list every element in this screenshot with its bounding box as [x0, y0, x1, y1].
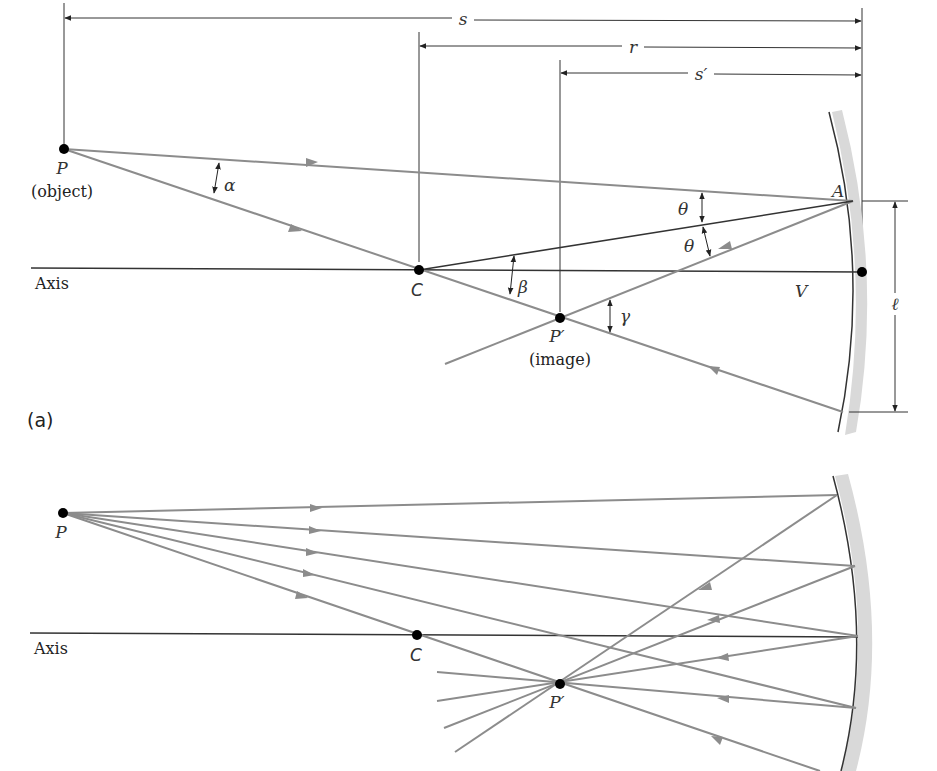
optical-axis-a	[31, 268, 862, 272]
image-label-b: P′	[548, 692, 564, 712]
rays-a	[64, 149, 853, 412]
object-caption: (object)	[31, 182, 93, 201]
concave-mirror-diagram: s r s′ Axis	[0, 0, 937, 771]
angle-beta: β	[510, 256, 528, 297]
center-point-b	[412, 630, 422, 640]
center-label-b: C	[410, 645, 422, 665]
angle-theta-2: θ	[684, 227, 710, 256]
dimension-r-label: r	[629, 37, 638, 57]
angle-alpha: α	[214, 163, 236, 195]
reflected-rays-b	[437, 495, 858, 752]
vertex-label: V	[795, 281, 809, 301]
image-label: P′	[548, 326, 564, 346]
image-point	[555, 313, 565, 323]
vertex-point	[857, 267, 867, 277]
angle-beta-label: β	[517, 277, 528, 297]
object-label-b: P	[54, 522, 67, 542]
axis-label-b: Axis	[33, 639, 68, 658]
radius-line-ca	[419, 201, 853, 270]
dimension-s-prime: s′	[561, 64, 861, 84]
point-a-label: A	[830, 181, 844, 201]
dimension-ell-label: ℓ	[891, 294, 898, 314]
dimension-r: r	[420, 37, 861, 57]
center-point	[414, 265, 424, 275]
panel-b: Axis P	[30, 474, 872, 771]
dimension-s-label: s	[459, 9, 468, 29]
object-point	[59, 144, 69, 154]
angle-gamma-label: γ	[620, 306, 631, 326]
dimension-s-prime-label: s′	[695, 64, 708, 84]
ray-arrows-a	[288, 158, 732, 375]
angle-gamma: γ	[610, 300, 631, 332]
panel-a: s r s′ Axis	[27, 3, 908, 435]
optical-axis-b	[30, 633, 858, 637]
center-label: C	[411, 280, 423, 300]
object-point-b	[58, 508, 68, 518]
angle-theta-2-label: θ	[684, 236, 694, 256]
image-caption: (image)	[529, 350, 591, 369]
object-label: P	[55, 158, 68, 178]
mirror-b	[833, 474, 872, 771]
angle-alpha-label: α	[224, 175, 236, 195]
image-point-b	[555, 679, 565, 689]
panel-a-label: (a)	[27, 409, 53, 431]
ray-arrows-b	[295, 504, 729, 745]
dimension-s: s	[65, 9, 861, 29]
angle-theta-1-label: θ	[678, 199, 688, 219]
angle-theta-1: θ	[678, 193, 702, 222]
axis-label-a: Axis	[34, 274, 69, 293]
